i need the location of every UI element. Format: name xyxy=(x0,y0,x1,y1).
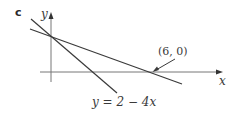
x-axis-label: x xyxy=(219,74,226,88)
y-axis-arrow-icon xyxy=(49,12,54,19)
point-label-6-0: (6, 0) xyxy=(158,45,188,58)
y-axis-label: y xyxy=(40,7,48,21)
annotation-arrow xyxy=(156,59,175,70)
graph-canvas: c y x (6, 0) y = 2 − 4x xyxy=(0,0,235,116)
annotation-arrowhead-icon xyxy=(153,67,160,73)
part-label: c xyxy=(15,6,22,19)
equation-label: y = 2 − 4x xyxy=(91,95,156,109)
